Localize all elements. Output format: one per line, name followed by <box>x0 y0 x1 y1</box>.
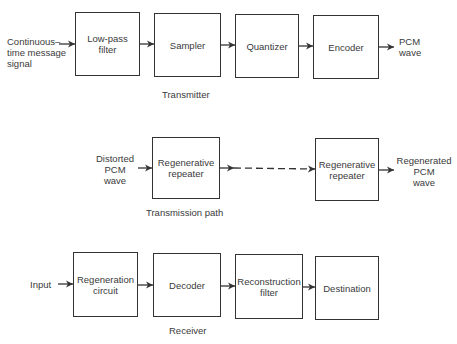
transmission-output-label: Regenerated PCM wave <box>393 155 455 188</box>
encoder-block: Encoder <box>313 15 379 79</box>
transmitter-input-label: Continuous– time message signal <box>7 36 66 69</box>
sampler-block: Sampler <box>154 13 221 77</box>
connection-arrows <box>0 0 457 344</box>
block-label: Encoder <box>328 42 363 53</box>
block-label: Low-pass filter <box>87 33 128 55</box>
regenerative-repeater-2-block: Regenerative repeater <box>315 138 379 201</box>
block-label: Regenerative repeater <box>319 159 376 181</box>
transmitter-caption: Transmitter <box>162 89 210 100</box>
block-label: Destination <box>323 283 371 294</box>
block-label: Reconstruction filter <box>237 276 300 298</box>
receiver-caption: Receiver <box>169 325 207 336</box>
low-pass-filter-block: Low-pass filter <box>75 12 140 76</box>
transmission-path-caption: Transmission path <box>146 207 223 218</box>
transmitter-output-label: PCM wave <box>399 36 421 58</box>
regenerative-repeater-1-block: Regenerative repeater <box>152 137 220 199</box>
block-label: Regeneration circuit <box>77 274 134 296</box>
transmission-input-label: Distorted PCM wave <box>94 153 136 186</box>
block-label: Decoder <box>169 280 205 291</box>
receiver-input-label: Input <box>30 279 51 290</box>
block-label: Quantizer <box>246 41 287 52</box>
destination-block: Destination <box>315 256 379 320</box>
regeneration-circuit-block: Regeneration circuit <box>73 252 138 317</box>
block-label: Sampler <box>170 40 205 51</box>
quantizer-block: Quantizer <box>235 14 299 78</box>
block-label: Regenerative repeater <box>158 157 215 179</box>
decoder-block: Decoder <box>153 253 221 317</box>
reconstruction-filter-block: Reconstruction filter <box>235 254 303 319</box>
